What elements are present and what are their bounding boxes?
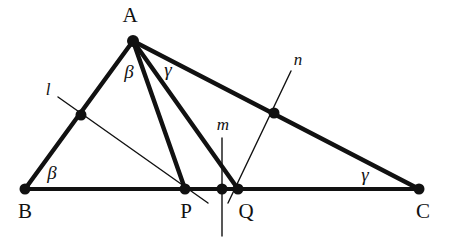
vertex-label-C: C: [416, 201, 430, 222]
point-midpoint-m: [217, 184, 228, 195]
line-n: [228, 71, 291, 203]
vertex-label-Q: Q: [238, 201, 253, 222]
point-A: [127, 35, 139, 47]
vertex-label-B: B: [18, 201, 32, 222]
point-C: [414, 184, 425, 195]
point-Q: [233, 184, 244, 195]
geometry-figure: A B C P Q l m n ββγγ: [0, 0, 455, 243]
beta-at-B: β: [47, 163, 56, 182]
vertex-label-P: P: [180, 201, 192, 222]
line-label-n: n: [294, 51, 303, 68]
point-midpoint-l: [76, 110, 87, 121]
gamma-at-A: γ: [164, 60, 172, 79]
point-midpoint-n: [269, 108, 280, 119]
beta-at-A: β: [124, 62, 133, 81]
line-label-l: l: [46, 81, 51, 98]
line-label-m: m: [217, 116, 229, 133]
point-B: [20, 184, 31, 195]
point-P: [180, 184, 191, 195]
vertex-label-A: A: [122, 5, 137, 26]
gamma-at-C: γ: [361, 165, 369, 184]
